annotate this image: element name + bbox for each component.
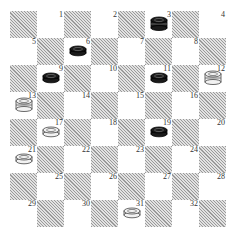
square-number-label: 22 xyxy=(82,145,90,154)
hatched-square xyxy=(172,65,199,92)
square-number-label: 32 xyxy=(190,199,198,208)
white-man-piece[interactable] xyxy=(15,151,33,169)
square-15[interactable]: 15 xyxy=(118,92,145,119)
white-king-piece[interactable] xyxy=(15,96,33,116)
checkers-board: 1234567891011121314151617181920212223242… xyxy=(10,11,226,227)
hatched-square xyxy=(64,11,91,38)
square-number-label: 6 xyxy=(86,37,90,46)
hatched-square xyxy=(10,119,37,146)
hatched-square xyxy=(91,146,118,173)
square-25[interactable]: 25 xyxy=(37,173,64,200)
hatched-square xyxy=(118,119,145,146)
square-number-label: 30 xyxy=(82,199,90,208)
hatched-square xyxy=(199,146,226,173)
hatched-square xyxy=(145,38,172,65)
black-man-piece[interactable] xyxy=(42,70,60,88)
square-29[interactable]: 29 xyxy=(10,200,37,227)
square-number-label: 16 xyxy=(190,91,198,100)
square-26[interactable]: 26 xyxy=(91,173,118,200)
square-number-label: 23 xyxy=(136,145,144,154)
square-6[interactable]: 6 xyxy=(64,38,91,65)
square-14[interactable]: 14 xyxy=(64,92,91,119)
hatched-square xyxy=(37,200,64,227)
square-23[interactable]: 23 xyxy=(118,146,145,173)
square-8[interactable]: 8 xyxy=(172,38,199,65)
square-number-label: 26 xyxy=(109,172,117,181)
square-2[interactable]: 2 xyxy=(91,11,118,38)
square-18[interactable]: 18 xyxy=(91,119,118,146)
hatched-square xyxy=(172,119,199,146)
hatched-square xyxy=(64,119,91,146)
hatched-square xyxy=(10,173,37,200)
square-19[interactable]: 19 xyxy=(145,119,172,146)
hatched-square xyxy=(118,173,145,200)
square-9[interactable]: 9 xyxy=(37,65,64,92)
hatched-square xyxy=(91,38,118,65)
square-number-label: 5 xyxy=(32,37,36,46)
square-number-label: 15 xyxy=(136,91,144,100)
white-man-piece[interactable] xyxy=(42,124,60,142)
hatched-square xyxy=(64,65,91,92)
square-number-label: 1 xyxy=(59,10,63,19)
black-man-piece[interactable] xyxy=(69,43,87,61)
square-12[interactable]: 12 xyxy=(199,65,226,92)
square-4[interactable]: 4 xyxy=(199,11,226,38)
square-30[interactable]: 30 xyxy=(64,200,91,227)
hatched-square xyxy=(145,146,172,173)
square-number-label: 20 xyxy=(217,118,225,127)
hatched-square xyxy=(10,65,37,92)
square-number-label: 2 xyxy=(113,10,117,19)
hatched-square xyxy=(118,11,145,38)
hatched-square xyxy=(118,65,145,92)
square-17[interactable]: 17 xyxy=(37,119,64,146)
black-man-piece[interactable] xyxy=(150,124,168,142)
square-22[interactable]: 22 xyxy=(64,146,91,173)
square-number-label: 27 xyxy=(163,172,171,181)
square-number-label: 24 xyxy=(190,145,198,154)
square-number-label: 25 xyxy=(55,172,63,181)
hatched-square xyxy=(145,92,172,119)
white-king-piece[interactable] xyxy=(204,69,222,89)
hatched-square xyxy=(91,200,118,227)
square-1[interactable]: 1 xyxy=(37,11,64,38)
hatched-square xyxy=(199,200,226,227)
square-7[interactable]: 7 xyxy=(118,38,145,65)
square-13[interactable]: 13 xyxy=(10,92,37,119)
hatched-square xyxy=(37,92,64,119)
hatched-square xyxy=(145,200,172,227)
square-24[interactable]: 24 xyxy=(172,146,199,173)
square-28[interactable]: 28 xyxy=(199,173,226,200)
square-number-label: 28 xyxy=(217,172,225,181)
square-number-label: 7 xyxy=(140,37,144,46)
hatched-square xyxy=(91,92,118,119)
square-number-label: 10 xyxy=(109,64,117,73)
hatched-square xyxy=(199,38,226,65)
hatched-square xyxy=(172,173,199,200)
black-king-piece[interactable] xyxy=(150,15,168,35)
white-man-piece[interactable] xyxy=(123,205,141,223)
square-number-label: 8 xyxy=(194,37,198,46)
square-27[interactable]: 27 xyxy=(145,173,172,200)
square-16[interactable]: 16 xyxy=(172,92,199,119)
square-number-label: 14 xyxy=(82,91,90,100)
square-21[interactable]: 21 xyxy=(10,146,37,173)
hatched-square xyxy=(199,92,226,119)
square-3[interactable]: 3 xyxy=(145,11,172,38)
hatched-square xyxy=(37,38,64,65)
square-number-label: 4 xyxy=(221,10,225,19)
square-31[interactable]: 31 xyxy=(118,200,145,227)
square-10[interactable]: 10 xyxy=(91,65,118,92)
square-number-label: 9 xyxy=(59,64,63,73)
hatched-square xyxy=(172,11,199,38)
square-number-label: 29 xyxy=(28,199,36,208)
square-number-label: 3 xyxy=(167,10,171,19)
square-11[interactable]: 11 xyxy=(145,65,172,92)
hatched-square xyxy=(37,146,64,173)
square-number-label: 18 xyxy=(109,118,117,127)
square-20[interactable]: 20 xyxy=(199,119,226,146)
black-man-piece[interactable] xyxy=(150,70,168,88)
square-5[interactable]: 5 xyxy=(10,38,37,65)
square-32[interactable]: 32 xyxy=(172,200,199,227)
hatched-square xyxy=(64,173,91,200)
hatched-square xyxy=(10,11,37,38)
